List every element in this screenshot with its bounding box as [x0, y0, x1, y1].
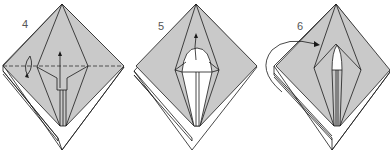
- step-5-illustration: [130, 0, 260, 155]
- step-number-5: 5: [158, 20, 164, 32]
- step-number-6: 6: [297, 20, 303, 32]
- step-6-illustration: [260, 0, 390, 155]
- step-number-4: 4: [22, 18, 28, 30]
- step-4-illustration: [0, 0, 130, 155]
- origami-diagram: 4 5: [0, 0, 390, 155]
